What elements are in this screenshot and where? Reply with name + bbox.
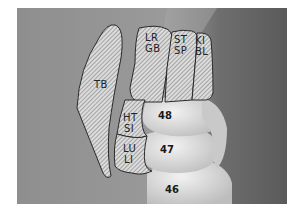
label-tb: TB	[93, 79, 108, 90]
tooth-label-47: 47	[160, 144, 174, 155]
teeth-group	[142, 96, 232, 204]
label-sp: SP	[174, 45, 187, 56]
diagram-figure: TB LR GB ST SP KI BL HT SI LU LI 48 47 4…	[17, 8, 287, 204]
tooth-label-48: 48	[158, 110, 172, 121]
label-ht: HT	[123, 112, 138, 123]
label-lr: LR	[145, 32, 159, 43]
label-lu: LU	[123, 143, 136, 154]
label-li: LI	[124, 154, 134, 165]
label-bl: BL	[195, 46, 208, 57]
label-ki: KI	[195, 35, 206, 46]
label-si: SI	[124, 123, 134, 134]
tooth-label-46: 46	[165, 184, 179, 195]
label-gb: GB	[145, 43, 161, 54]
label-st: ST	[174, 34, 188, 45]
